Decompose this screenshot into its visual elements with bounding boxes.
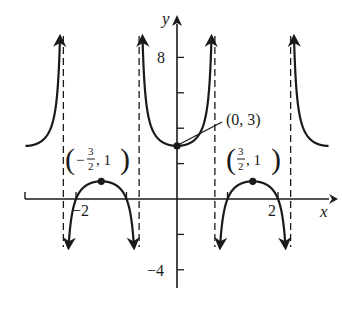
x-axis-arrow-icon <box>329 194 338 204</box>
fraction-numerator: 3 <box>238 145 244 157</box>
curve-branch-upper-left <box>26 40 60 146</box>
x-axis-label: x <box>319 202 328 221</box>
key-point <box>173 142 180 149</box>
y-axis-label: y <box>160 9 170 28</box>
point-label-left: ( − 3 2 , 1 ) <box>65 142 130 176</box>
y-tick-label-neg4: −4 <box>147 262 164 279</box>
y-axis <box>172 15 182 288</box>
minus-sign: − <box>76 152 84 168</box>
key-point <box>249 178 256 185</box>
y-tick-label-8: 8 <box>157 49 165 66</box>
paren-close: ) <box>271 142 281 176</box>
paren-close: ) <box>120 142 130 176</box>
paren-open: ( <box>226 142 236 176</box>
curve-branch-upper-right <box>294 40 328 146</box>
point-label-right: ( 3 2 , 1 ) <box>226 142 281 176</box>
fraction-denominator: 2 <box>88 160 94 172</box>
point-y-value: , 1 <box>96 152 111 168</box>
fraction-denominator: 2 <box>238 160 244 172</box>
x-tick-label-neg2: −2 <box>72 202 89 219</box>
secant-graph: y x 8 −4 −2 2 (0, 3) ( − 3 2 , 1 ) ( 3 2… <box>0 0 342 310</box>
paren-open: ( <box>65 142 75 176</box>
key-point <box>98 178 105 185</box>
x-tick-label-2: 2 <box>268 202 276 219</box>
point-y-value: , 1 <box>246 152 261 168</box>
point-label-center: (0, 3) <box>226 111 261 129</box>
fraction-numerator: 3 <box>88 145 94 157</box>
